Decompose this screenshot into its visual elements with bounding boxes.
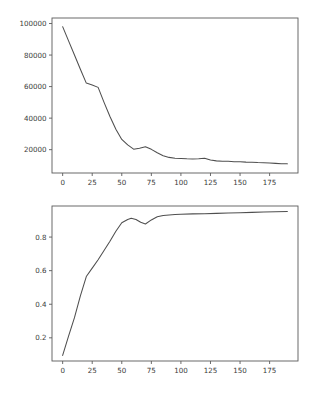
loss-xtick-label: 175 <box>263 178 277 187</box>
accuracy-xtick-label: 50 <box>117 366 127 375</box>
accuracy-chart-canvas: 0.20.40.60.80255075100125150175 <box>0 197 313 394</box>
accuracy-xtick-label: 0 <box>60 366 65 375</box>
accuracy-ytick-label: 0.8 <box>35 233 47 242</box>
loss-axes-frame <box>52 18 298 173</box>
loss-series-loss <box>63 27 288 164</box>
loss-xtick-label: 100 <box>174 178 188 187</box>
loss-xtick-label: 50 <box>117 178 127 187</box>
accuracy-ytick-label: 0.6 <box>35 266 47 275</box>
matplotlib-figure: 2000040000600008000010000002550751001251… <box>0 0 313 394</box>
loss-ytick-label: 100000 <box>19 19 47 28</box>
loss-xtick-label: 75 <box>147 178 156 187</box>
loss-xtick-label: 0 <box>60 178 65 187</box>
accuracy-ytick-label: 0.2 <box>35 333 46 342</box>
accuracy-xtick-label: 175 <box>263 366 277 375</box>
accuracy-xtick-label: 100 <box>174 366 188 375</box>
loss-ytick-label: 40000 <box>24 114 47 123</box>
accuracy-axes-frame <box>52 206 298 361</box>
subplot-loss: 2000040000600008000010000002550751001251… <box>0 0 313 197</box>
accuracy-xtick-label: 75 <box>147 366 156 375</box>
loss-ytick-label: 60000 <box>24 82 47 91</box>
loss-chart-canvas: 2000040000600008000010000002550751001251… <box>0 0 313 197</box>
accuracy-xtick-label: 125 <box>204 366 218 375</box>
accuracy-ytick-label: 0.4 <box>35 300 47 309</box>
loss-ytick-label: 80000 <box>24 51 47 60</box>
loss-xtick-label: 150 <box>233 178 247 187</box>
accuracy-series-accuracy <box>63 212 288 356</box>
loss-ytick-label: 20000 <box>24 145 47 154</box>
loss-xtick-label: 125 <box>204 178 218 187</box>
subplot-accuracy: 0.20.40.60.80255075100125150175 <box>0 197 313 394</box>
loss-xtick-label: 25 <box>88 178 97 187</box>
accuracy-xtick-label: 25 <box>88 366 97 375</box>
accuracy-xtick-label: 150 <box>233 366 247 375</box>
